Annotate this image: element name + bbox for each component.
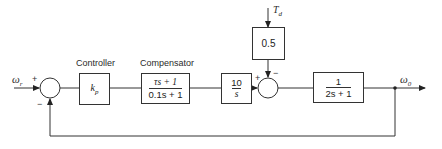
plant-block: 1 2s + 1: [313, 72, 364, 103]
input-subscript: r: [20, 80, 23, 88]
compensator-transfer-function: τs + 1 0.1s + 1: [145, 77, 185, 100]
compensator-denominator: 0.1s + 1: [145, 89, 185, 100]
controller-gain-subscript: p: [95, 88, 99, 96]
integrator-numerator: 10: [228, 77, 245, 88]
input-signal-label: ωr: [12, 73, 23, 88]
input-symbol: ω: [12, 73, 20, 85]
disturbance-gain-block: 0.5: [252, 27, 285, 60]
output-signal-label: ω0: [400, 73, 411, 88]
plant-denominator: 2s + 1: [322, 88, 354, 99]
sum2-plus-sign: +: [255, 73, 260, 83]
integrator-transfer-function: 10 s: [228, 77, 245, 100]
controller-caption: Controller: [76, 58, 115, 68]
disturbance-gain-value: 0.5: [262, 38, 276, 49]
sum2-minus-sign: −: [273, 68, 278, 78]
compensator-caption: Compensator: [140, 58, 194, 68]
output-subscript: 0: [408, 80, 412, 88]
sum1-minus-sign: −: [37, 99, 42, 109]
integrator-denominator: s: [232, 89, 242, 100]
plant-numerator: 1: [333, 76, 344, 87]
disturbance-label: Td: [273, 4, 282, 18]
compensator-numerator: τs + 1: [151, 77, 180, 88]
output-symbol: ω: [400, 73, 408, 85]
plant-transfer-function: 1 2s + 1: [322, 76, 354, 99]
controller-block: kp: [79, 73, 110, 105]
integrator-block: 10 s: [221, 73, 252, 104]
sum1-plus-sign: +: [32, 74, 37, 84]
compensator-block: τs + 1 0.1s + 1: [141, 73, 190, 104]
controller-gain: kp: [91, 82, 99, 96]
disturbance-subscript: d: [279, 10, 283, 18]
